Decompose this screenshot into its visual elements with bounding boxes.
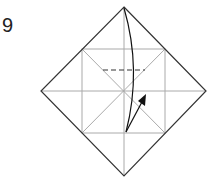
arrow-head-icon xyxy=(138,94,146,106)
crease-lines xyxy=(41,7,206,176)
origami-diagram xyxy=(0,0,217,191)
arrow-shaft xyxy=(126,100,143,132)
